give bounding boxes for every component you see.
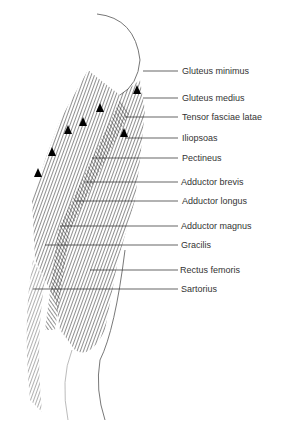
- gracilis-strand: [27, 260, 45, 412]
- knee-outline-left: [65, 350, 72, 420]
- label-gluteus-minimus: Gluteus minimus: [182, 66, 249, 76]
- label-sartorius: Sartorius: [181, 284, 217, 294]
- label-tensor-fasciae-latae: Tensor fasciae latae: [182, 112, 262, 122]
- label-gluteus-medius: Gluteus medius: [182, 93, 245, 103]
- label-iliopsoas: Iliopsoas: [182, 133, 218, 143]
- label-pectineus: Pectineus: [182, 153, 222, 163]
- label-adductor-brevis: Adductor brevis: [181, 177, 244, 187]
- label-adductor-longus: Adductor longus: [182, 196, 247, 206]
- label-adductor-magnus: Adductor magnus: [181, 221, 252, 231]
- thigh-muscle-illustration: [0, 0, 281, 427]
- label-gracilis: Gracilis: [181, 240, 211, 250]
- label-rectus-femoris: Rectus femoris: [180, 265, 240, 275]
